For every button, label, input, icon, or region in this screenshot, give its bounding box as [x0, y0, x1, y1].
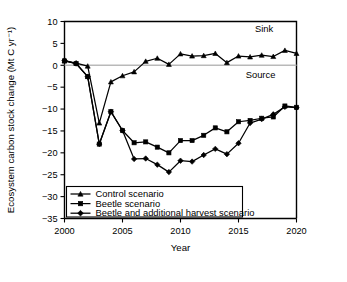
y-axis-title: Ecosystem carbon stock change (Mt C yr⁻¹… [5, 27, 16, 213]
x-tick-label: 2020 [286, 226, 306, 236]
marker-square [190, 138, 194, 142]
marker-square [236, 120, 240, 124]
marker-diamond [189, 159, 194, 164]
x-tick-label: 2010 [170, 226, 190, 236]
marker-square [248, 118, 252, 122]
chart-legend: Control scenarioBeetle scenarioBeetle an… [67, 187, 255, 219]
marker-triangle [155, 56, 160, 61]
marker-square [178, 138, 182, 142]
marker-square [202, 133, 206, 137]
y-tick-label: −25 [42, 170, 58, 180]
x-tick-label: 2005 [112, 226, 132, 236]
y-tick-label: −5 [47, 82, 57, 92]
marker-square [97, 142, 101, 146]
marker-square [132, 141, 136, 145]
marker-square [260, 116, 264, 120]
marker-diamond [143, 156, 148, 161]
y-tick-label: −30 [42, 192, 58, 202]
x-tick-label: 2000 [54, 226, 74, 236]
y-tick-label: −10 [42, 104, 58, 114]
marker-square [294, 105, 298, 109]
legend-entry-label: Beetle and additional harvest scenario [96, 207, 255, 218]
y-tick-label: −35 [42, 214, 58, 224]
y-tick-label: 10 [47, 17, 57, 27]
chart-figure: 1050−5−10−15−20−25−30−352000200520102015… [0, 0, 347, 282]
marker-square [120, 128, 124, 132]
annotation-source: Source [246, 69, 276, 80]
marker-square [144, 140, 148, 144]
x-axis-title: Year [171, 242, 191, 253]
marker-square [271, 115, 275, 119]
y-tick-label: 5 [52, 39, 57, 49]
marker-square [78, 201, 82, 205]
marker-square [213, 126, 217, 130]
marker-square [109, 110, 113, 114]
y-tick-label: 0 [52, 61, 57, 71]
marker-triangle [97, 121, 102, 126]
carbon-stock-change-line-chart: 1050−5−10−15−20−25−30−352000200520102015… [0, 0, 347, 282]
marker-square [155, 145, 159, 149]
marker-square [225, 130, 229, 134]
y-tick-label: −15 [42, 126, 58, 136]
marker-diamond [213, 146, 218, 151]
marker-diamond [131, 156, 136, 161]
marker-square [283, 104, 287, 108]
x-tick-label: 2015 [228, 226, 248, 236]
series-path [65, 50, 297, 123]
marker-diamond [201, 152, 206, 157]
marker-square [167, 151, 171, 155]
annotation-sink: Sink [255, 23, 274, 34]
marker-triangle [282, 48, 287, 53]
series-control-scenario [62, 48, 299, 125]
y-tick-label: −20 [42, 148, 58, 158]
